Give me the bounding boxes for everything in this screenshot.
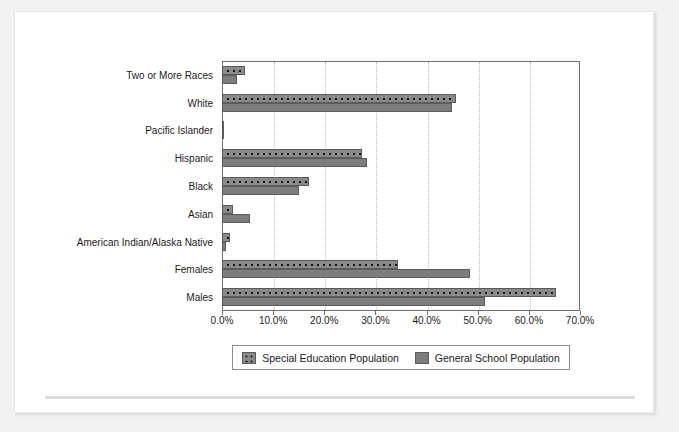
x-tick-mark bbox=[375, 311, 376, 315]
bars-layer bbox=[222, 61, 580, 311]
chart-legend: Special Education Population General Sch… bbox=[232, 345, 570, 370]
category-axis-labels: Two or More RacesWhitePacific IslanderHi… bbox=[55, 61, 218, 311]
bar-general bbox=[222, 186, 299, 195]
bar-general bbox=[222, 103, 452, 112]
legend-item-general: General School Population bbox=[415, 352, 560, 364]
x-tick-label: 0.0% bbox=[211, 315, 234, 326]
bar-special bbox=[222, 121, 224, 130]
bar-special bbox=[222, 233, 230, 242]
x-tick-mark bbox=[427, 311, 428, 315]
bar-chart: Two or More RacesWhitePacific IslanderHi… bbox=[0, 0, 679, 432]
bar-general bbox=[222, 75, 237, 84]
x-tick-label: 50.0% bbox=[464, 315, 492, 326]
bar-general bbox=[222, 158, 367, 167]
bar-general bbox=[222, 214, 250, 223]
x-tick-mark bbox=[529, 311, 530, 315]
bar-special bbox=[222, 149, 362, 158]
legend-swatch-general-icon bbox=[415, 352, 429, 364]
x-tick-label: 30.0% bbox=[361, 315, 389, 326]
bar-special bbox=[222, 205, 233, 214]
x-tick-mark bbox=[273, 311, 274, 315]
x-axis-labels: 0.0%10.0%20.0%30.0%40.0%50.0%60.0%70.0% bbox=[222, 315, 580, 331]
x-tick-mark bbox=[478, 311, 479, 315]
category-label: Asian bbox=[188, 208, 213, 219]
bar-special bbox=[222, 288, 556, 297]
legend-swatch-special-icon bbox=[242, 352, 256, 364]
x-tick-label: 70.0% bbox=[566, 315, 594, 326]
bar-general bbox=[222, 130, 224, 139]
x-tick-mark bbox=[222, 311, 223, 315]
legend-label-special: Special Education Population bbox=[262, 352, 399, 364]
bar-special bbox=[222, 66, 245, 75]
x-tick-label: 20.0% bbox=[310, 315, 338, 326]
x-tick-mark bbox=[324, 311, 325, 315]
x-tick-label: 10.0% bbox=[259, 315, 287, 326]
category-label: Hispanic bbox=[175, 153, 213, 164]
x-tick-label: 60.0% bbox=[515, 315, 543, 326]
bar-general bbox=[222, 269, 470, 278]
bar-special bbox=[222, 94, 456, 103]
x-tick-mark bbox=[580, 311, 581, 315]
bar-general bbox=[222, 297, 485, 306]
bar-general bbox=[222, 242, 226, 251]
legend-item-special: Special Education Population bbox=[242, 352, 399, 364]
category-label: American Indian/Alaska Native bbox=[77, 236, 213, 247]
bar-special bbox=[222, 260, 398, 269]
category-label: Black bbox=[189, 181, 213, 192]
category-label: White bbox=[187, 97, 213, 108]
category-label: Two or More Races bbox=[126, 69, 213, 80]
x-tick-label: 40.0% bbox=[412, 315, 440, 326]
legend-label-general: General School Population bbox=[435, 352, 560, 364]
category-label: Pacific Islander bbox=[145, 125, 213, 136]
bar-special bbox=[222, 177, 309, 186]
category-label: Females bbox=[175, 264, 213, 275]
category-label: Males bbox=[186, 292, 213, 303]
